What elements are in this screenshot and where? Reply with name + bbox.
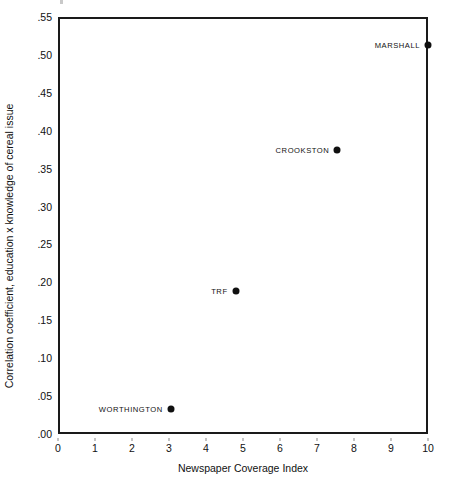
- data-point-label: WORTHINGTON: [99, 404, 163, 413]
- x-tick-mark: [169, 438, 170, 441]
- data-point-label: MARSHALL: [375, 41, 420, 50]
- x-tick-mark: [243, 438, 244, 441]
- x-tick-label: 2: [129, 442, 135, 454]
- x-tick-label: 0: [55, 442, 61, 454]
- data-point-label: CROOKSTON: [276, 145, 330, 154]
- y-tick-label: .40: [26, 125, 52, 137]
- x-tick-mark: [391, 438, 392, 441]
- x-tick-label: 1: [92, 442, 98, 454]
- x-tick-label: 4: [203, 442, 209, 454]
- x-tick-label: 8: [351, 442, 357, 454]
- data-point-label: TRF: [211, 287, 227, 296]
- x-axis-title: Newspaper Coverage Index: [58, 462, 428, 474]
- x-tick-mark: [317, 438, 318, 441]
- y-tick-label: .10: [26, 352, 52, 364]
- x-tick-label: 5: [240, 442, 246, 454]
- scatter-plot-figure: Correlation coefficient, education x kno…: [0, 0, 452, 492]
- x-tick-label: 10: [422, 442, 434, 454]
- x-tick-mark: [95, 438, 96, 441]
- x-tick-mark: [58, 438, 59, 441]
- y-tick-label: .35: [26, 163, 52, 175]
- data-point: [232, 288, 239, 295]
- y-axis-title: Correlation coefficient, education x kno…: [0, 0, 18, 492]
- x-tick-mark: [428, 438, 429, 441]
- y-tick-label: .25: [26, 238, 52, 250]
- y-tick-label: .15: [26, 314, 52, 326]
- y-axis-tick-labels: .00.05.10.15.20.25.30.35.40.45.50.55: [24, 0, 52, 492]
- data-point: [334, 146, 341, 153]
- x-tick-mark: [132, 438, 133, 441]
- x-tick-mark: [206, 438, 207, 441]
- data-point: [167, 405, 174, 412]
- y-tick-label: .20: [26, 276, 52, 288]
- y-tick-label: .05: [26, 390, 52, 402]
- x-tick-mark: [354, 438, 355, 441]
- top-artifact-mark: [60, 0, 63, 4]
- x-tick-mark: [280, 438, 281, 441]
- y-tick-label: .55: [26, 11, 52, 23]
- x-axis-tick-labels: 012345678910: [0, 438, 452, 458]
- data-point: [425, 42, 432, 49]
- plot-area: [58, 17, 428, 434]
- y-tick-label: .30: [26, 201, 52, 213]
- x-tick-label: 7: [314, 442, 320, 454]
- x-tick-label: 9: [388, 442, 394, 454]
- y-tick-label: .50: [26, 49, 52, 61]
- x-tick-label: 6: [277, 442, 283, 454]
- x-tick-label: 3: [166, 442, 172, 454]
- y-tick-label: .45: [26, 87, 52, 99]
